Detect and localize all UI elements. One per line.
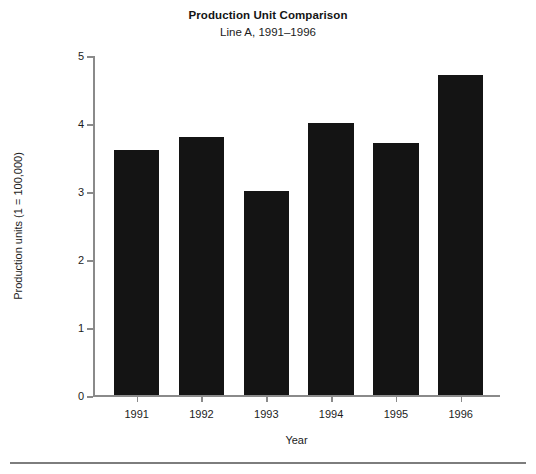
y-tick-label: 1 [78,322,84,334]
y-tick-mark [87,192,93,194]
x-tick-mark [331,396,333,402]
y-tick-label: 4 [78,118,84,130]
bar [308,123,353,395]
x-axis-title: Year [93,434,500,446]
y-axis-title: Production units (1 = 100,000) [12,56,32,396]
y-tick-mark [87,56,93,58]
bar-chart-figure: Production Unit Comparison Line A, 1991–… [0,0,536,474]
y-tick-mark [87,396,93,398]
y-axis-title-container: Production units (1 = 100,000) [12,56,32,396]
y-tick-label: 3 [78,186,84,198]
x-tick-mark [396,396,398,402]
y-axis-line [93,56,95,396]
x-tick-mark [266,396,268,402]
x-tick-label: 1996 [448,408,472,420]
x-tick-label: 1995 [384,408,408,420]
x-tick-mark [461,396,463,402]
bar [179,137,224,395]
x-tick-mark [201,396,203,402]
x-tick-label: 1992 [189,408,213,420]
y-tick-label: 5 [78,50,84,62]
y-tick-label: 0 [78,390,84,402]
bar [438,75,483,395]
x-axis-line [93,395,500,397]
x-tick-mark [137,396,139,402]
chart-title: Production Unit Comparison [0,9,536,21]
chart-subtitle: Line A, 1991–1996 [0,26,536,38]
y-tick-mark [87,124,93,126]
bar [114,150,159,395]
bar [244,191,289,395]
x-tick-label: 1993 [254,408,278,420]
y-tick-mark [87,328,93,330]
x-tick-label: 1994 [319,408,343,420]
x-tick-label: 1991 [124,408,148,420]
bar [373,143,418,395]
y-tick-mark [87,260,93,262]
footer-divider [10,462,526,464]
plot-area: 012345 199119921993199419951996 [93,56,500,396]
y-tick-label: 2 [78,254,84,266]
